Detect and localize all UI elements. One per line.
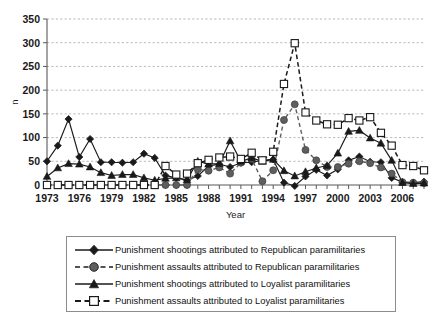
y-axis-title: n: [9, 99, 20, 104]
plot-area: 0501001502002503003501973197619791982198…: [0, 0, 429, 230]
series-line: [47, 119, 424, 186]
data-point-diamond: [65, 115, 72, 122]
data-point-square: [43, 181, 50, 188]
x-tick-label: 1979: [100, 192, 124, 204]
data-point-diamond: [54, 142, 61, 149]
data-point-circle: [173, 182, 180, 189]
legend-item-label: Punishment assaults attributed to Republ…: [115, 260, 359, 274]
legend-item: Punishment shootings attributed to Loyal…: [73, 276, 389, 292]
data-point-square: [183, 170, 190, 177]
data-point-circle: [367, 160, 374, 167]
y-tick-label: 150: [22, 108, 40, 120]
x-tick-label: 1976: [68, 192, 92, 204]
data-point-square: [334, 121, 341, 128]
data-point-square: [248, 149, 255, 156]
data-point-triangle: [43, 173, 51, 180]
x-tick-label: 1973: [35, 192, 59, 204]
legend-item-label: Punishment assaults attributed to Loyali…: [115, 294, 344, 308]
data-point-triangle: [97, 169, 105, 176]
x-tick-label: 1985: [165, 192, 189, 204]
y-tick-label: 50: [28, 155, 40, 167]
x-tick-label: 2000: [326, 192, 350, 204]
data-point-diamond: [43, 158, 50, 165]
data-point-diamond: [227, 163, 234, 170]
data-point-square: [216, 154, 223, 161]
data-point-triangle: [377, 139, 385, 146]
data-point-square: [108, 181, 115, 188]
data-point-circle: [205, 167, 212, 174]
data-point-square: [173, 171, 180, 178]
line-chart: 0501001502002503003501973197619791982198…: [0, 0, 429, 230]
data-point-square: [345, 115, 352, 122]
y-tick-label: 200: [22, 84, 40, 96]
data-point-circle: [345, 160, 352, 167]
data-point-square: [119, 181, 126, 188]
data-point-circle: [334, 163, 341, 170]
data-point-triangle: [388, 156, 396, 163]
data-point-triangle: [334, 149, 342, 156]
x-tick-label: 2006: [391, 192, 415, 204]
data-point-square: [162, 162, 169, 169]
x-tick-label: 1997: [294, 192, 318, 204]
legend-item-label: Punishment shootings attributed to Loyal…: [115, 277, 350, 291]
data-point-circle: [162, 182, 169, 189]
data-point-circle: [280, 117, 287, 124]
data-point-square: [291, 40, 298, 47]
data-point-square: [410, 162, 417, 169]
diamond-filled-icon: [73, 243, 115, 257]
data-point-square: [313, 117, 320, 124]
data-point-circle: [388, 170, 395, 177]
data-point-square: [420, 167, 427, 174]
data-point-diamond: [119, 159, 126, 166]
data-point-square: [65, 181, 72, 188]
data-point-triangle: [226, 137, 234, 144]
data-point-diamond: [151, 154, 158, 161]
data-point-triangle: [65, 160, 73, 167]
data-point-diamond: [86, 135, 93, 142]
data-point-triangle: [356, 127, 364, 134]
data-point-diamond: [323, 172, 330, 179]
data-point-square: [399, 161, 406, 168]
chart-figure: 0501001502002503003501973197619791982198…: [0, 0, 429, 322]
data-point-square: [151, 181, 158, 188]
x-axis-title: Year: [226, 209, 245, 220]
legend-item: Punishment assaults attributed to Republ…: [73, 259, 389, 275]
circle-filled-gray-icon: [73, 260, 115, 274]
x-tick-label: 1994: [262, 192, 286, 204]
data-point-square: [86, 181, 93, 188]
y-tick-label: 300: [22, 37, 40, 49]
data-point-square: [356, 117, 363, 124]
data-point-circle: [291, 101, 298, 108]
legend-item-label: Punishment shootings attributed to Repub…: [115, 243, 365, 257]
data-point-square: [280, 80, 287, 87]
series-0: [43, 115, 427, 189]
chart-legend: Punishment shootings attributed to Repub…: [66, 236, 396, 312]
data-point-diamond: [97, 159, 104, 166]
triangle-filled-icon: [73, 277, 115, 291]
legend-item: Punishment shootings attributed to Repub…: [73, 242, 389, 258]
data-point-square: [194, 160, 201, 167]
data-point-square: [237, 155, 244, 162]
data-point-square: [302, 109, 309, 116]
y-tick-label: 250: [22, 60, 40, 72]
x-tick-label: 2003: [358, 192, 382, 204]
y-tick-label: 100: [22, 131, 40, 143]
data-point-circle: [302, 146, 309, 153]
data-point-square: [140, 181, 147, 188]
data-point-circle: [313, 157, 320, 164]
data-point-square: [377, 129, 384, 136]
data-point-circle: [377, 164, 384, 171]
y-tick-label: 0: [34, 179, 40, 191]
x-tick-label: 1988: [197, 192, 221, 204]
data-point-circle: [270, 167, 277, 174]
data-point-diamond: [76, 153, 83, 160]
x-tick-label: 1982: [132, 192, 156, 204]
square-open-icon: [73, 294, 115, 308]
data-point-circle: [356, 158, 363, 165]
data-point-square: [270, 148, 277, 155]
data-point-square: [388, 142, 395, 149]
x-tick-label: 1991: [229, 192, 253, 204]
data-point-square: [367, 114, 374, 121]
series-2: [43, 127, 428, 187]
data-point-circle: [227, 170, 234, 177]
